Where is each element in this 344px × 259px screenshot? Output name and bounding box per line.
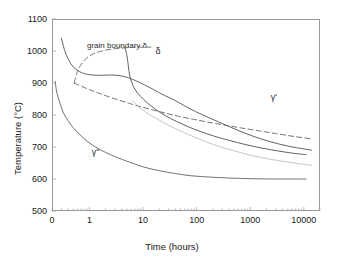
curve-grain-boundary-delta-dashed (74, 47, 151, 83)
curve-layer (0, 0, 344, 259)
ttt-diagram-chart: 50060070080090010001100 0110100100010000… (0, 0, 344, 259)
curve-gamma-double-prime-solid-c-curve (55, 81, 306, 179)
curve-grain-boundary-delta-dashed-lower (74, 83, 310, 139)
x-axis-title: Time (hours) (0, 241, 344, 252)
curve-gamma-prime-light-curve (133, 101, 312, 166)
curve-delta-solid-upper-branch (125, 47, 306, 155)
y-axis-title: Temperature (°C) (12, 102, 23, 175)
